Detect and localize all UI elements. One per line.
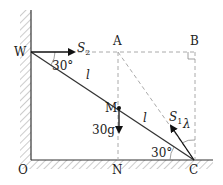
s1-subscript: 1: [177, 117, 182, 126]
label-n: N: [112, 163, 123, 177]
label-c: C: [189, 163, 198, 177]
label-a: A: [112, 34, 122, 48]
point-m-dot: [117, 106, 121, 110]
construction-lines: [78, 52, 195, 160]
angle-arc-lambda: [182, 140, 195, 143]
label-length-lower: l: [143, 111, 147, 125]
s2-subscript: 2: [85, 48, 90, 57]
label-w: W: [14, 45, 27, 59]
wall-hatching: [20, 10, 31, 160]
label-length-upper: l: [86, 68, 90, 82]
label-lambda: λ: [182, 117, 191, 131]
label-weight: 30g: [92, 123, 115, 137]
s1-force-arrow: [171, 126, 194, 160]
right-angle-marker: [188, 52, 195, 59]
label-angle-w: 30°: [52, 59, 73, 73]
s1-symbol: S: [169, 110, 177, 124]
label-b: B: [190, 34, 199, 48]
ladder-statics-diagram: W A B M O N C S2 S1 30g l l 30° 30° λ: [0, 0, 223, 185]
label-angle-c: 30°: [151, 146, 172, 160]
label-o: O: [18, 163, 28, 177]
s2-symbol: S: [77, 41, 85, 55]
label-s2: S2: [77, 41, 90, 57]
label-s1: S1: [169, 110, 182, 126]
label-m: M: [105, 101, 117, 115]
